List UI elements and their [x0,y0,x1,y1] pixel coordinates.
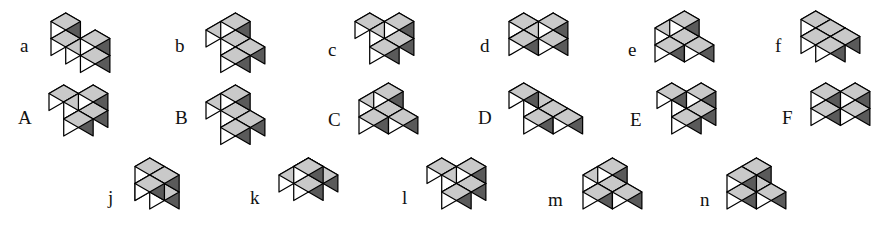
cube-shape-j [132,155,182,221]
cube-shape-k [276,155,341,212]
figure-label-j: j [108,188,113,207]
row-lowercase-jn: jklmn [0,0,894,233]
cube-shape-l [424,155,489,221]
cube-shape-n [724,155,789,221]
figure-label-l: l [402,188,407,207]
figure-label-m: m [548,190,563,209]
figure-label-n: n [700,190,710,209]
cube-figure-sheet: abcdefABCDEFjklmn [0,0,894,233]
cube-shape-m [580,155,645,221]
figure-label-k: k [250,188,260,207]
